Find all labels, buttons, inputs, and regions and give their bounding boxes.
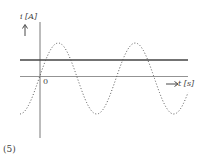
figure-canvas [0,0,198,157]
y-axis-arrow-icon [23,25,28,37]
y-axis-label: i [A] [20,12,37,21]
origin-label: 0 [43,77,48,86]
x-axis-arrow-icon [166,82,178,87]
figure-caption: (5) [3,144,16,154]
x-axis-label: t [s] [178,79,194,88]
